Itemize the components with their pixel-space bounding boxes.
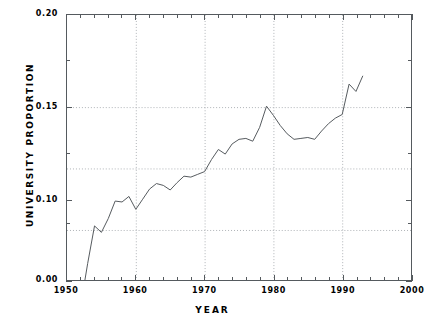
axis-tick (343, 14, 344, 20)
axis-tick (94, 14, 95, 18)
axis-tick (121, 14, 122, 18)
axis-tick (384, 277, 385, 281)
axis-tick (408, 223, 412, 224)
axis-tick (177, 14, 178, 18)
axis-tick (177, 277, 178, 281)
axis-tick (80, 277, 81, 281)
axis-tick (66, 107, 72, 108)
axis-tick (398, 14, 399, 18)
axis-tick (412, 275, 413, 281)
axis-tick (135, 275, 136, 281)
axis-tick (315, 277, 316, 281)
axis-tick (260, 277, 261, 281)
axis-tick (357, 277, 358, 281)
axis-tick (329, 14, 330, 18)
axis-tick (66, 275, 67, 281)
axis-tick (66, 223, 70, 224)
axis-tick (66, 200, 72, 201)
axis-tick (232, 14, 233, 18)
axis-tick (406, 281, 412, 282)
axis-tick (80, 14, 81, 18)
axis-tick (66, 14, 67, 20)
axis-tick (108, 14, 109, 18)
axis-tick (301, 277, 302, 281)
x-tick-label-2000: 2000 (390, 286, 425, 295)
data-line-series (67, 15, 411, 280)
axis-tick (163, 14, 164, 18)
axis-tick (287, 277, 288, 281)
chart-page: 0.20 0.15 0.10 0.00 1950 1960 1970 1980 … (0, 0, 425, 329)
axis-tick (66, 281, 72, 282)
axis-tick (329, 277, 330, 281)
axis-tick (108, 277, 109, 281)
x-tick-label-1970: 1970 (182, 286, 226, 295)
axis-tick (357, 14, 358, 18)
axis-tick (246, 277, 247, 281)
axis-tick (408, 60, 412, 61)
axis-tick (135, 14, 136, 20)
axis-tick (204, 275, 205, 281)
y-axis-title: UNIVERSITY PROPORTION (25, 55, 35, 235)
axis-tick (370, 14, 371, 18)
plot-area (66, 14, 412, 281)
x-tick-label-1990: 1990 (321, 286, 365, 295)
axis-tick (149, 277, 150, 281)
axis-tick (66, 60, 70, 61)
axis-tick (191, 277, 192, 281)
axis-tick (412, 14, 413, 20)
axis-tick (94, 277, 95, 281)
x-tick-label-1980: 1980 (252, 286, 296, 295)
axis-tick (287, 14, 288, 18)
axis-tick (66, 153, 70, 154)
axis-tick (301, 14, 302, 18)
axis-tick (315, 14, 316, 18)
axis-tick (398, 277, 399, 281)
axis-tick (408, 153, 412, 154)
x-axis-title: YEAR (0, 305, 425, 315)
axis-tick (232, 277, 233, 281)
y-tick-label-000: 0.00 (24, 275, 58, 284)
axis-tick (406, 200, 412, 201)
axis-tick (370, 277, 371, 281)
axis-tick (260, 14, 261, 18)
axis-tick (121, 277, 122, 281)
axis-tick (163, 277, 164, 281)
axis-tick (149, 14, 150, 18)
y-tick-label-020: 0.20 (24, 9, 58, 18)
axis-tick (204, 14, 205, 20)
x-tick-label-1950: 1950 (44, 286, 88, 295)
axis-tick (218, 277, 219, 281)
x-tick-label-1960: 1960 (113, 286, 157, 295)
axis-tick (384, 14, 385, 18)
axis-tick (274, 14, 275, 20)
axis-tick (218, 14, 219, 18)
axis-tick (343, 275, 344, 281)
axis-tick (406, 107, 412, 108)
axis-tick (246, 14, 247, 18)
axis-tick (191, 14, 192, 18)
axis-tick (274, 275, 275, 281)
